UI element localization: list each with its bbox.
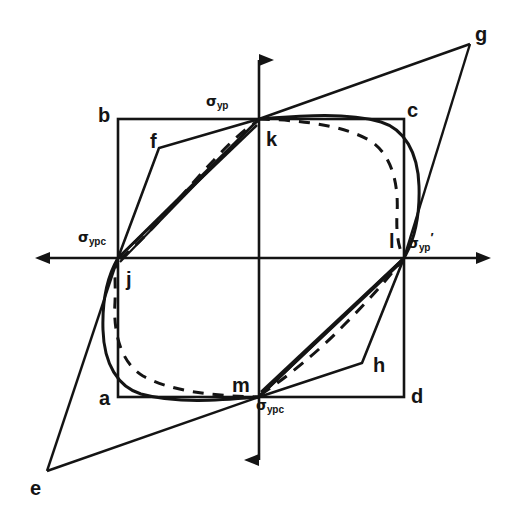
axis-label-sigma-ypc-left: σypc	[78, 230, 106, 247]
diagram-svg	[0, 0, 514, 520]
chord-m-l-outer	[259, 262, 402, 397]
point-label-j: j	[126, 269, 132, 289]
point-label-e: e	[30, 478, 41, 498]
sigma-glyph-bottom: σ	[256, 397, 267, 413]
sigma-subscript-top: yp	[217, 100, 228, 111]
sigma-prime-right: ′	[430, 230, 433, 245]
point-label-h: h	[373, 355, 385, 375]
point-label-m: m	[232, 375, 250, 395]
sigma-glyph-left: σ	[78, 229, 89, 245]
line-k-to-g	[259, 44, 470, 119]
point-label-b: b	[98, 105, 110, 125]
sigma-subscript-right: yp	[419, 242, 430, 253]
sigma-subscript-left: ypc	[89, 236, 106, 247]
sigma-glyph-right: σ	[408, 235, 419, 251]
path-group-m-l	[259, 258, 404, 397]
point-label-c: c	[407, 100, 418, 120]
axis-label-sigma-ypc-bottom: σypc	[256, 398, 284, 415]
figure-canvas: σyp σypc σyp′ σypc a b c d e f g h j k l…	[0, 0, 514, 520]
dashed-ellipse-curve-upper-right	[259, 119, 404, 258]
sigma-subscript-bottom: ypc	[267, 404, 284, 415]
point-label-g: g	[475, 24, 487, 44]
sigma-glyph-top: σ	[206, 93, 217, 109]
axis-label-sigma-yp-top: σyp	[206, 94, 228, 111]
line-m-to-e	[47, 397, 259, 471]
line-e-to-j	[47, 258, 118, 471]
path-group-j-k	[118, 119, 259, 262]
line-g-to-l	[404, 44, 470, 258]
point-label-a: a	[99, 388, 110, 408]
point-label-l: l	[389, 231, 395, 251]
point-label-d: d	[411, 386, 423, 406]
point-label-f: f	[150, 131, 157, 151]
axis-label-sigma-yp-right: σyp′	[408, 231, 434, 253]
point-label-k: k	[266, 129, 277, 149]
